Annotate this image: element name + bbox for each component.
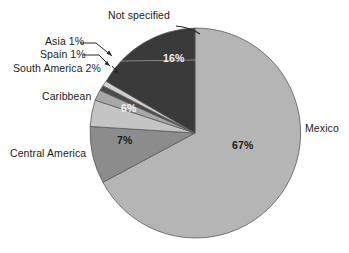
pie-chart-figure: Not specified Asia 1% Spain 1% South Ame… <box>0 0 349 253</box>
label-caribbean: Caribbean <box>42 90 91 102</box>
label-spain: Spain 1% <box>40 48 86 60</box>
label-south-america: South America 2% <box>13 62 101 74</box>
percent-label-central-america: 7% <box>117 134 133 146</box>
percent-label-mexico: 67% <box>232 139 254 151</box>
percent-label-not-specified: 16% <box>163 52 185 64</box>
label-central-america: Central America <box>10 147 86 159</box>
label-mexico: Mexico <box>305 122 339 134</box>
label-not-specified: Not specified <box>108 9 170 21</box>
label-asia: Asia 1% <box>45 35 84 47</box>
percent-label-caribbean: 6% <box>121 102 137 114</box>
